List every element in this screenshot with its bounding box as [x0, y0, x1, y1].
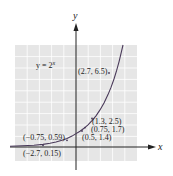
y-axis-arrow-icon [74, 23, 79, 31]
point-marker [84, 127, 86, 129]
point-label-2.7-6.5: (2.7, 6.5) [78, 67, 108, 76]
point-label-0.5-1.4: (0.5, 1.4) [82, 133, 112, 142]
y-axis-label: y [72, 10, 78, 21]
point-label-neg2.7-0.15: (−2.7, 0.15) [23, 149, 61, 158]
point-marker [81, 130, 83, 132]
exponential-graph: x y y = 2x (2.7, 6.5) (1.3, 2.5) (0.75, … [0, 0, 173, 176]
x-axis-label: x [157, 141, 163, 152]
point-label-neg0.75-0.59: (−0.75, 0.59) [23, 133, 65, 142]
x-axis-arrow-icon [148, 145, 156, 150]
point-marker [42, 144, 44, 146]
point-marker [108, 72, 110, 74]
point-marker [66, 139, 68, 141]
